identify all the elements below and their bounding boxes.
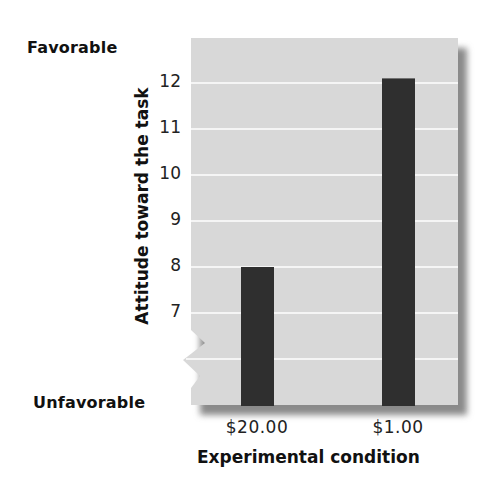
x-axis-title: Experimental condition	[197, 447, 420, 467]
y-tick-label: 11	[141, 117, 181, 137]
y-tick-label: 9	[141, 209, 181, 229]
bar-twenty-dollars	[241, 267, 274, 406]
y-tick-label: 10	[141, 163, 181, 183]
chart-plot-area	[0, 0, 504, 488]
x-tick-label: $20.00	[207, 417, 307, 437]
y-tick-label: 7	[141, 301, 181, 321]
unfavorable-label: Unfavorable	[33, 393, 145, 412]
favorable-label: Favorable	[27, 38, 118, 57]
y-tick-label: 8	[141, 255, 181, 275]
x-tick-label: $1.00	[348, 417, 448, 437]
bar-one-dollar	[382, 78, 415, 406]
y-tick-label: 12	[141, 71, 181, 91]
